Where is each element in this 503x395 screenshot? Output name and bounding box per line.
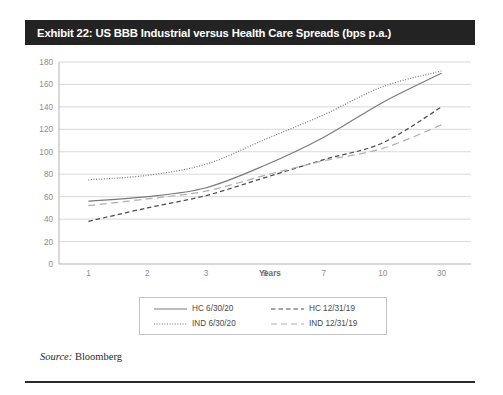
exhibit-page: Exhibit 22: US BBB Industrial versus Hea… <box>0 0 503 395</box>
legend-item-ind-12-31-19: IND 12/31/19 <box>263 319 380 328</box>
source-value: Bloomberg <box>75 351 122 362</box>
y-axis-tick-label: 140 <box>39 103 53 112</box>
source-prefix: Source: <box>40 351 72 362</box>
x-axis-tick-label: 3 <box>204 269 209 278</box>
legend-label-hc-12-31-19: HC 12/31/19 <box>309 304 355 313</box>
series-line <box>88 73 441 201</box>
legend-swatch-dotted <box>154 320 187 328</box>
series-layer <box>88 71 441 221</box>
x-axis-tick-label: 30 <box>437 269 447 278</box>
legend-item-hc-6-30-20: HC 6/30/20 <box>146 304 263 313</box>
legend-swatch-long-dash <box>271 320 304 328</box>
legend-item-ind-6-30-20: IND 6/30/20 <box>146 319 263 328</box>
bottom-divider <box>25 381 475 383</box>
y-axis-tick-label: 80 <box>44 170 54 179</box>
y-axis-tick-label: 40 <box>44 215 54 224</box>
legend-label-hc-6-30-20: HC 6/30/20 <box>192 304 233 313</box>
chart-legend: HC 6/30/20 HC 12/31/19 IND 6/30/20 IND 1… <box>139 297 387 335</box>
source-note: Source: Bloomberg <box>40 351 122 362</box>
legend-label-ind-6-30-20: IND 6/30/20 <box>192 319 236 328</box>
y-axis-tick-label: 120 <box>39 125 53 134</box>
y-axis-tick-label: 0 <box>48 260 53 269</box>
legend-swatch-solid <box>154 305 187 313</box>
series-line <box>88 71 441 180</box>
x-axis-tick-label: 7 <box>322 269 327 278</box>
legend-label-ind-12-31-19: IND 12/31/19 <box>309 319 357 328</box>
y-axis-tick-label: 100 <box>39 148 53 157</box>
x-axis-tick-label: 10 <box>378 269 388 278</box>
legend-swatch-dashed <box>271 305 304 313</box>
legend-item-hc-12-31-19: HC 12/31/19 <box>263 304 380 313</box>
x-axis-tick-label: 1 <box>86 269 91 278</box>
page-title: Exhibit 22: US BBB Industrial versus Hea… <box>25 27 391 39</box>
exhibit-title-bar: Exhibit 22: US BBB Industrial versus Hea… <box>25 20 475 45</box>
y-axis-tick-labels: 020406080100120140160180 <box>39 58 53 269</box>
y-axis-tick-label: 60 <box>44 193 54 202</box>
y-axis-tick-label: 160 <box>39 80 53 89</box>
y-axis-tick-label: 180 <box>39 58 53 67</box>
gridlines <box>59 62 471 264</box>
series-line <box>88 107 441 221</box>
x-axis-tick-label: 2 <box>145 269 150 278</box>
x-axis-title: Years <box>259 269 281 278</box>
y-axis-tick-label: 20 <box>44 238 54 247</box>
chart-canvas: 020406080100120140160180 123571030 Years <box>25 52 475 282</box>
line-chart: 020406080100120140160180 123571030 Years <box>25 52 475 282</box>
